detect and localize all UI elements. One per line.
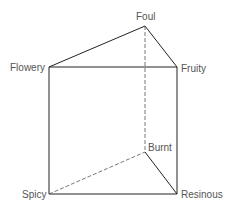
label-flowery: Flowery [10,62,45,74]
label-burnt: Burnt [148,142,172,154]
edge-burnt-resinous [145,152,177,194]
edge-flowery-foul [49,26,145,67]
label-foul: Foul [136,11,155,23]
label-spicy: Spicy [22,189,46,201]
edge-spicy-burnt-hidden [49,152,145,194]
label-resinous: Resinous [181,189,223,201]
edge-foul-fruity [145,26,177,67]
label-fruity: Fruity [181,63,206,75]
odor-prism-diagram [0,0,229,210]
